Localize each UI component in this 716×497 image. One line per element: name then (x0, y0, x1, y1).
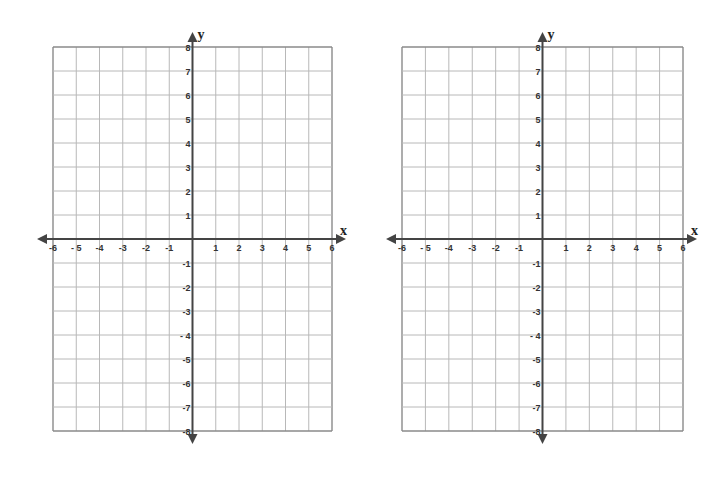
coordinate-plane-left: xy-6- 5-4-3-2-112345687654321-1-2-3- 4-5… (37, 27, 347, 444)
y-tick-label: -5 (532, 355, 540, 365)
x-tick-label: 2 (587, 243, 592, 253)
y-tick-label: -8 (182, 427, 190, 437)
arrow-up-icon (188, 32, 198, 42)
y-tick-label: 4 (535, 139, 540, 149)
x-tick-label: -2 (142, 243, 150, 253)
x-tick-label: 6 (329, 243, 334, 253)
y-tick-label: 1 (535, 211, 540, 221)
x-axis-label: x (691, 223, 698, 238)
x-tick-label: -3 (468, 243, 476, 253)
y-tick-label: 7 (535, 67, 540, 77)
y-tick-label: -1 (182, 259, 190, 269)
x-tick-label: -4 (445, 243, 453, 253)
x-tick-label: -4 (95, 243, 103, 253)
y-tick-label: -2 (182, 283, 190, 293)
y-tick-label: -3 (182, 307, 190, 317)
y-tick-label: -1 (532, 259, 540, 269)
y-axis-label: y (198, 27, 205, 42)
y-tick-label: - 4 (180, 331, 191, 341)
y-tick-label: 4 (185, 139, 190, 149)
x-tick-label: -1 (165, 243, 173, 253)
y-tick-label: -5 (182, 355, 190, 365)
arrow-left-icon (386, 234, 396, 244)
arrow-up-icon (538, 32, 548, 42)
x-tick-label: 1 (563, 243, 568, 253)
y-tick-label: 7 (185, 67, 190, 77)
y-tick-label: -8 (532, 427, 540, 437)
y-tick-label: 8 (535, 43, 540, 53)
y-tick-label: 5 (185, 115, 190, 125)
x-tick-label: 3 (610, 243, 615, 253)
y-tick-label: -2 (532, 283, 540, 293)
y-tick-label: 2 (185, 187, 190, 197)
x-tick-label: -1 (515, 243, 523, 253)
x-tick-label: 6 (680, 243, 685, 253)
x-tick-label: -6 (49, 243, 57, 253)
x-tick-label: 1 (213, 243, 218, 253)
x-tick-label: 5 (306, 243, 311, 253)
x-axis-label: x (340, 223, 347, 238)
x-tick-label: - 5 (420, 243, 431, 253)
y-tick-label: 6 (535, 91, 540, 101)
x-tick-label: 4 (283, 243, 288, 253)
x-tick-label: -6 (398, 243, 406, 253)
y-tick-label: 6 (185, 91, 190, 101)
y-tick-label: 3 (535, 163, 540, 173)
y-tick-label: 3 (185, 163, 190, 173)
y-tick-label: 2 (535, 187, 540, 197)
x-tick-label: 4 (634, 243, 639, 253)
y-tick-label: - 4 (530, 331, 541, 341)
x-tick-label: -2 (492, 243, 500, 253)
y-axis-label: y (548, 27, 555, 42)
x-tick-label: 5 (657, 243, 662, 253)
coordinate-planes-svg: xy-6- 5-4-3-2-112345687654321-1-2-3- 4-5… (0, 0, 716, 497)
y-tick-label: -3 (532, 307, 540, 317)
y-tick-label: -6 (532, 379, 540, 389)
x-tick-label: 2 (236, 243, 241, 253)
y-tick-label: 5 (535, 115, 540, 125)
x-tick-label: 3 (260, 243, 265, 253)
x-tick-label: -3 (119, 243, 127, 253)
x-tick-label: - 5 (71, 243, 82, 253)
arrow-left-icon (37, 234, 47, 244)
y-tick-label: 8 (185, 43, 190, 53)
y-tick-label: -7 (182, 403, 190, 413)
y-tick-label: -7 (532, 403, 540, 413)
coordinate-plane-right: xy-6- 5-4-3-2-112345687654321-1-2-3- 4-5… (386, 27, 698, 444)
y-tick-label: -6 (182, 379, 190, 389)
y-tick-label: 1 (185, 211, 190, 221)
